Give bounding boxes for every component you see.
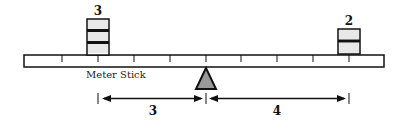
meter-stick: [24, 55, 384, 67]
right-weight-stack: [338, 29, 360, 54]
distance-markers: [98, 93, 349, 104]
left-distance-label: 3: [146, 105, 160, 117]
left-weight-label: 3: [91, 5, 105, 17]
meter-stick-label: Meter Stick: [86, 69, 146, 80]
left-weight-stack: [87, 19, 109, 55]
fulcrum-icon: [196, 68, 216, 89]
right-weight-label: 2: [342, 15, 356, 27]
right-distance-label: 4: [270, 105, 284, 117]
